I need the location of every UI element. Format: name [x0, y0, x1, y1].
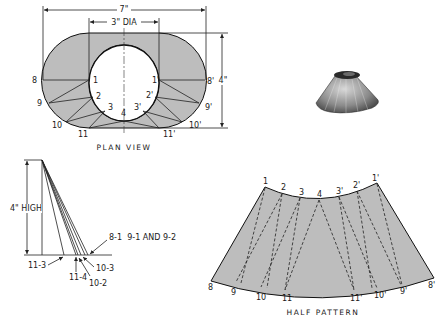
plan-point-9: 9 — [37, 99, 42, 108]
plan-point-3: 3 — [108, 103, 113, 112]
pattern-point-9: 9 — [231, 288, 236, 297]
pattern-point-3p: 3' — [336, 187, 343, 196]
pattern-point-1p: 1' — [372, 174, 379, 183]
callout-leader-8-1 — [90, 240, 107, 254]
width-dim-label: 7" — [120, 5, 129, 14]
plan-view: 7" 3" DIA 4" 8 9 10 11 11' 10' 9' 8' 1 2… — [32, 5, 230, 152]
plan-point-10p: 10' — [189, 121, 201, 130]
true-length-diagram: 4" HIGH 8-1 9-1 AND 9-2 11-3 11-4 10-2 1… — [10, 160, 176, 288]
half-pattern-shape — [211, 183, 434, 298]
half-pattern-caption: HALF PATTERN — [287, 308, 360, 317]
plan-point-8: 8 — [32, 76, 37, 85]
pattern-point-11: 11 — [282, 294, 292, 303]
plan-point-8p: 8' — [207, 77, 214, 86]
callout-10-2: 10-2 — [89, 279, 107, 288]
drawing-canvas: 7" 3" DIA 4" 8 9 10 11 11' 10' 9' 8' 1 2… — [0, 0, 443, 326]
plan-point-1: 1 — [93, 76, 98, 85]
plan-point-11: 11 — [78, 130, 88, 139]
finished-piece-photo — [316, 71, 378, 113]
callout-10-3: 10-3 — [96, 264, 114, 273]
plan-point-9p: 9' — [205, 103, 212, 112]
plan-point-3p: 3' — [134, 103, 141, 112]
plan-point-2p: 2' — [146, 91, 153, 100]
dia-dim-label: 3" DIA — [111, 18, 137, 27]
plan-point-1p: 1' — [152, 76, 159, 85]
plan-point-10: 10 — [52, 121, 62, 130]
pattern-point-9p: 9' — [400, 287, 407, 296]
plan-view-caption: PLAN VIEW — [97, 143, 152, 152]
pattern-point-8p: 8' — [428, 281, 435, 290]
pattern-point-10: 10 — [256, 293, 266, 302]
pattern-point-8: 8 — [208, 283, 213, 292]
depth-dim-label: 4" — [219, 76, 228, 85]
pattern-point-10p: 10' — [374, 291, 386, 300]
plan-point-11p: 11' — [163, 130, 175, 139]
pattern-point-2p: 2' — [353, 181, 360, 190]
pattern-point-3: 3 — [299, 188, 304, 197]
callout-leader-11-3 — [48, 257, 63, 265]
tl-hypotenuses — [42, 160, 88, 255]
callout-leader-10-3 — [83, 257, 94, 267]
plan-point-4: 4 — [121, 109, 126, 118]
tl-height-label: 4" HIGH — [10, 204, 42, 213]
callout-11-3: 11-3 — [28, 261, 46, 270]
plan-point-2: 2 — [96, 92, 101, 101]
pattern-point-1: 1 — [263, 177, 268, 186]
pattern-point-4: 4 — [317, 190, 322, 199]
pattern-point-2: 2 — [281, 183, 286, 192]
callout-11-4: 11-4 — [69, 273, 87, 282]
half-pattern: 1 2 3 4 3' 2' 1' 8 9 10 11 11' 10' 9' 8'… — [208, 174, 435, 317]
callout-8-1: 8-1 9-1 AND 9-2 — [109, 233, 176, 242]
pattern-point-11p: 11' — [350, 294, 362, 303]
